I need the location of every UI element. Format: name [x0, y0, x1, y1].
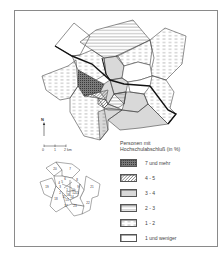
legend-label: 7 und mehr — [145, 160, 170, 166]
scale-tick-1: 1 — [54, 148, 56, 152]
scale-tick-0: 0 — [42, 148, 44, 152]
legend-title: Personen mit Hochschulabschluß (in %) — [120, 140, 180, 152]
legend-title-line2: Hochschulabschluß (in %) — [120, 146, 180, 152]
legend-label: 1 - 2 — [145, 220, 155, 226]
svg-text:17: 17 — [64, 204, 68, 208]
legend-item: 1 und weniger — [120, 233, 176, 242]
svg-text:15: 15 — [75, 191, 79, 195]
svg-text:14: 14 — [70, 195, 74, 199]
svg-text:8: 8 — [76, 178, 78, 182]
legend-item: 3 - 4 — [120, 188, 155, 197]
legend-item: 2 - 3 — [120, 203, 155, 212]
legend-item: 7 und mehr — [120, 158, 170, 167]
main-map — [42, 20, 186, 140]
district-21 — [150, 28, 186, 80]
legend-label: 4 - 5 — [145, 175, 155, 181]
svg-text:18: 18 — [54, 197, 58, 201]
svg-text:23: 23 — [73, 204, 77, 208]
svg-text:22: 22 — [86, 201, 90, 205]
scale-bar — [44, 145, 66, 148]
north-label: N — [41, 117, 44, 122]
swatch-sparse-lines-icon — [120, 204, 137, 212]
choropleth-map: 2076 853 1949 2121 101811 161314 172322 … — [0, 0, 224, 259]
scale-tick-2: 2 km — [64, 148, 72, 152]
swatch-crosshatch-icon — [120, 159, 137, 167]
svg-text:13: 13 — [65, 198, 69, 202]
swatch-dense-lines-icon — [120, 189, 137, 197]
swatch-empty-icon — [120, 234, 137, 242]
legend-item: 4 - 5 — [120, 173, 155, 182]
legend-label: 2 - 3 — [145, 205, 155, 211]
legend-label: 1 und weniger — [145, 235, 176, 241]
swatch-diagonal-icon — [120, 174, 137, 182]
svg-text:19: 19 — [45, 185, 49, 189]
swatch-dashed-icon — [120, 219, 137, 227]
legend-item: 1 - 2 — [120, 218, 155, 227]
legend-label: 3 - 4 — [145, 190, 155, 196]
svg-text:21: 21 — [90, 185, 94, 189]
svg-text:20: 20 — [53, 167, 57, 171]
